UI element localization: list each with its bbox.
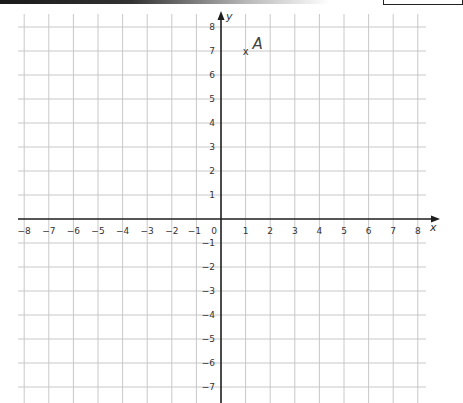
x-tick-label: 6 xyxy=(366,226,372,236)
x-tick-label: 4 xyxy=(317,226,323,236)
x-tick-label: 7 xyxy=(390,226,396,236)
x-tick-label: 3 xyxy=(292,226,298,236)
y-tick-label: −1 xyxy=(202,238,215,248)
y-tick-label: 5 xyxy=(209,94,215,104)
x-tick-label: 0 xyxy=(211,226,217,236)
y-tick-label: −4 xyxy=(202,310,216,320)
point-marker-icon: x xyxy=(243,46,249,57)
y-tick-label: 8 xyxy=(209,22,215,32)
y-tick-label: −7 xyxy=(202,382,215,392)
y-tick-label: 3 xyxy=(209,142,215,152)
y-tick-label: −3 xyxy=(202,286,215,296)
x-tick-label: −2 xyxy=(165,226,178,236)
y-tick-label: −6 xyxy=(202,358,216,368)
y-tick-label: −2 xyxy=(202,262,215,272)
x-tick-label: −4 xyxy=(116,226,130,236)
y-tick-label: 2 xyxy=(209,166,215,176)
y-tick-label: 6 xyxy=(209,70,215,80)
y-tick-label: 1 xyxy=(209,190,215,200)
y-tick-label: 7 xyxy=(209,46,215,56)
x-tick-label: −6 xyxy=(67,226,81,236)
x-tick-label: −7 xyxy=(42,226,55,236)
x-tick-label: −5 xyxy=(91,226,104,236)
x-tick-label: 1 xyxy=(243,226,249,236)
x-tick-label: −3 xyxy=(141,226,154,236)
x-tick-label: −8 xyxy=(18,226,32,236)
y-axis-label: y xyxy=(225,10,233,23)
x-axis-label: x xyxy=(429,221,437,234)
y-tick-label: 4 xyxy=(209,118,215,128)
y-tick-label: −5 xyxy=(202,334,215,344)
point-label: A xyxy=(252,35,263,53)
x-tick-label: 2 xyxy=(267,226,273,236)
y-axis-arrow-icon xyxy=(218,11,225,20)
x-tick-label: −1 xyxy=(188,226,201,236)
x-tick-label: 5 xyxy=(341,226,347,236)
x-tick-label: 8 xyxy=(415,226,421,236)
